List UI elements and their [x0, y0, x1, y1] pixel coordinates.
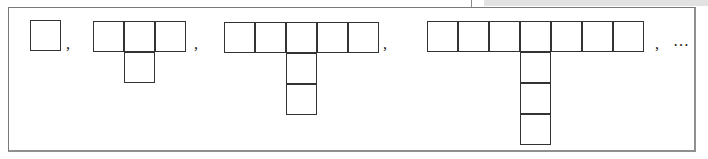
- square-cell: [286, 84, 317, 115]
- separator-comma-2: ,: [194, 36, 198, 52]
- square-cell: [427, 21, 458, 52]
- square-cell: [458, 21, 489, 52]
- square-cell: [286, 53, 317, 84]
- continuation-ellipsis: …: [673, 33, 690, 49]
- square-cell: [551, 21, 582, 52]
- square-cell: [155, 21, 186, 52]
- square-cell: [520, 52, 551, 83]
- square-cell: [582, 21, 613, 52]
- square-cell: [255, 22, 286, 53]
- square-cell: [124, 21, 155, 52]
- square-cell: [613, 21, 644, 52]
- square-cell: [124, 52, 155, 83]
- square-cell: [520, 83, 551, 114]
- square-cell: [520, 114, 551, 145]
- square-cell: [30, 20, 61, 51]
- square-cell: [286, 22, 317, 53]
- square-cell: [489, 21, 520, 52]
- top-divider: [471, 0, 472, 7]
- separator-comma-3: ,: [383, 36, 387, 52]
- separator-comma-1: ,: [66, 36, 70, 52]
- top-gray-bar: [484, 0, 708, 6]
- square-cell: [348, 22, 379, 53]
- square-cell: [93, 21, 124, 52]
- square-cell: [224, 22, 255, 53]
- separator-comma-4: ,: [655, 36, 659, 52]
- square-cell: [317, 22, 348, 53]
- square-cell: [520, 21, 551, 52]
